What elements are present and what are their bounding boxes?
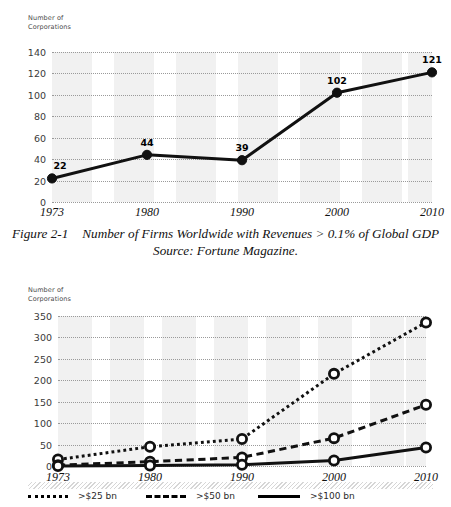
- data-point-marker: [329, 434, 338, 443]
- data-point-marker: [237, 460, 246, 469]
- figure-bottom-chart: Number of Corporations 19731980199020002…: [0, 268, 451, 500]
- data-point-marker: [421, 443, 430, 452]
- plot-area-bottom: [58, 316, 426, 466]
- data-point-marker: [421, 400, 430, 409]
- y-axis-tick-label: 80: [16, 111, 46, 122]
- y-axis-tick-label: 60: [16, 132, 46, 143]
- data-point-label: 121: [422, 54, 442, 65]
- x-axis-tick-label: 1990: [230, 205, 254, 220]
- gridline: [52, 202, 432, 203]
- data-point-marker: [332, 88, 341, 97]
- series-line-top: [52, 52, 432, 202]
- data-point-label: 39: [235, 142, 248, 153]
- data-point-label: 44: [140, 137, 153, 148]
- legend-swatch-dotted-icon: [28, 495, 68, 498]
- figure-top-chart: Number of Corporations 224439102121 1973…: [0, 0, 451, 222]
- y-axis-tick-label: 0: [22, 461, 52, 472]
- y-axis-tick-label: 40: [16, 154, 46, 165]
- y-axis-tick-label: 100: [16, 89, 46, 100]
- y-axis-tick-label: 0: [16, 197, 46, 208]
- data-point-marker: [142, 150, 151, 159]
- y-axis-tick-label: 140: [16, 47, 46, 58]
- legend-label: >$50 bn: [196, 491, 235, 501]
- y-axis-tick-label: 150: [22, 396, 52, 407]
- legend-label: >$25 bn: [78, 491, 117, 501]
- data-point-marker: [427, 68, 436, 77]
- data-point-marker: [329, 456, 338, 465]
- y-axis-tick-label: 100: [22, 418, 52, 429]
- figure-caption: Figure 2-1Number of Firms Worldwide with…: [0, 226, 451, 259]
- caption-figure-number: Figure 2-1: [12, 226, 68, 241]
- data-point-marker: [47, 174, 56, 183]
- y-axis-tick-label: 20: [16, 175, 46, 186]
- data-point-marker: [329, 369, 338, 378]
- y-axis-tick-label: 250: [22, 353, 52, 364]
- legend-item[interactable]: >$100 bn: [258, 491, 355, 501]
- legend-swatch-solid-icon: [258, 495, 300, 498]
- legend-item[interactable]: >$25 bn: [28, 491, 117, 501]
- data-point-label: 102: [327, 75, 347, 86]
- data-point-label: 22: [53, 160, 66, 171]
- legend-swatch-dashed-icon: [146, 495, 186, 498]
- caption-title: Number of Firms Worldwide with Revenues …: [82, 226, 439, 241]
- y-axis-tick-label: 200: [22, 375, 52, 386]
- x-axis-tick-label: 2000: [325, 205, 349, 220]
- axis-separator-strip: [28, 482, 433, 489]
- x-axis-tick-label: 1980: [135, 205, 159, 220]
- y-axis-tick-label: 50: [22, 439, 52, 450]
- plot-area-top: 224439102121: [52, 52, 432, 202]
- y-axis-title: Number of Corporations: [28, 286, 71, 303]
- data-point-marker: [421, 318, 430, 327]
- data-point-marker: [237, 434, 246, 443]
- data-point-marker: [145, 442, 154, 451]
- data-point-marker: [145, 461, 154, 470]
- y-axis-title: Number of Corporations: [28, 14, 71, 31]
- legend-label: >$100 bn: [310, 491, 355, 501]
- data-point-marker: [237, 156, 246, 165]
- caption-source: Source: Fortune Magazine.: [0, 243, 451, 260]
- y-axis-tick-label: 300: [22, 332, 52, 343]
- x-axis-tick-label: 2010: [420, 205, 444, 220]
- y-axis-tick-label: 120: [16, 68, 46, 79]
- legend-item[interactable]: >$50 bn: [146, 491, 235, 501]
- series-lines-bottom: [58, 316, 426, 466]
- y-axis-tick-label: 350: [22, 311, 52, 322]
